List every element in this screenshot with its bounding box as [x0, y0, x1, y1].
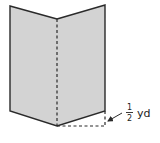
dimension-label: 1 2 yd [126, 103, 151, 123]
label-arrow [108, 113, 122, 121]
folded-sheet-diagram: 1 2 yd [0, 0, 160, 143]
unit-label: yd [137, 107, 151, 120]
left-panel [10, 6, 57, 126]
fraction-numerator: 1 [127, 103, 132, 112]
right-panel [57, 5, 105, 126]
fraction-denominator: 2 [127, 114, 132, 123]
